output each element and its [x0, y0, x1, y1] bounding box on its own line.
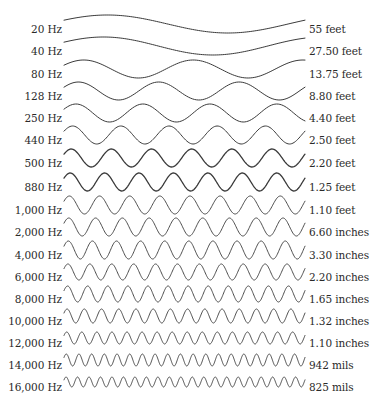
frequency-wavelength-diagram: 20 Hz55 feet40 Hz27.50 feet80 Hz13.75 fe…	[0, 0, 379, 415]
sine-wave	[64, 286, 305, 302]
sine-wave	[64, 264, 305, 280]
sine-wave	[64, 332, 305, 344]
wavelength-label: 2.50 feet	[309, 134, 355, 146]
frequency-label: 16,000 Hz	[8, 381, 62, 393]
wavelength-label: 1.10 inches	[309, 337, 369, 349]
frequency-label: 6,000 Hz	[15, 271, 62, 283]
sine-wave	[64, 82, 305, 100]
frequency-label: 20 Hz	[31, 23, 62, 35]
frequency-label: 80 Hz	[31, 68, 62, 80]
wavelength-label: 6.60 inches	[309, 226, 369, 238]
frequency-label: 8,000 Hz	[15, 293, 62, 305]
frequency-label: 440 Hz	[25, 134, 62, 146]
frequency-label: 10,000 Hz	[8, 315, 62, 327]
wavelength-label: 1.10 feet	[309, 204, 355, 216]
wavelength-label: 3.30 inches	[309, 249, 369, 261]
wavelength-label: 13.75 feet	[309, 68, 362, 80]
frequency-label: 880 Hz	[25, 181, 62, 193]
wavelength-label: 55 feet	[309, 23, 346, 35]
sine-wave	[64, 60, 305, 78]
sine-wave	[64, 309, 305, 323]
frequency-label: 14,000 Hz	[8, 359, 62, 371]
wavelength-label: 1.25 feet	[309, 181, 355, 193]
sine-wave	[64, 377, 305, 387]
wavelength-label: 2.20 inches	[309, 271, 369, 283]
sine-wave	[64, 354, 305, 366]
sine-wave	[64, 218, 305, 236]
wavelength-label: 2.20 feet	[309, 157, 355, 169]
sine-wave	[64, 126, 305, 144]
sine-wave	[64, 241, 305, 259]
wavelength-label: 942 mils	[309, 359, 354, 371]
wavelength-label: 825 mils	[309, 381, 354, 393]
frequency-label: 500 Hz	[25, 157, 62, 169]
wavelength-label: 1.32 inches	[309, 315, 369, 327]
frequency-label: 40 Hz	[31, 45, 62, 57]
sine-wave	[64, 104, 305, 122]
sine-wave	[64, 37, 305, 55]
frequency-label: 128 Hz	[25, 90, 62, 102]
frequency-label: 4,000 Hz	[15, 249, 62, 261]
sine-wave	[64, 15, 305, 33]
sine-wave	[64, 173, 305, 191]
frequency-label: 2,000 Hz	[15, 226, 62, 238]
frequency-label: 12,000 Hz	[8, 337, 62, 349]
wavelength-label: 27.50 feet	[309, 45, 362, 57]
wavelength-label: 4.40 feet	[309, 112, 355, 124]
frequency-label: 250 Hz	[25, 112, 62, 124]
wavelength-label: 1.65 inches	[309, 293, 369, 305]
wavelength-label: 8.80 feet	[309, 90, 355, 102]
sine-wave	[64, 196, 305, 214]
sine-wave	[64, 149, 305, 167]
frequency-label: 1,000 Hz	[15, 204, 62, 216]
